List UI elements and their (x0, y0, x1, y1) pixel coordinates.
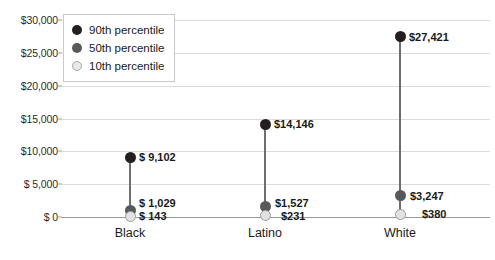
legend-marker-icon (72, 43, 82, 53)
data-label-p50: $3,247 (410, 190, 444, 202)
gridline (62, 86, 490, 87)
legend-item-p10: 10th percentile (72, 57, 164, 75)
data-point-p90 (260, 119, 271, 130)
dot-plot-chart: $30,000 $25,000 $20,000 $15,000 $10,000 … (0, 0, 495, 260)
x-axis-tick-label-black: Black (115, 226, 146, 240)
x-axis-tick-label-white: White (384, 226, 416, 240)
data-point-p10 (395, 209, 406, 220)
chart-legend: 90th percentile 50th percentile 10th per… (63, 14, 175, 82)
y-axis-tick-label: $30,000 (0, 14, 58, 26)
data-label-p90: $27,421 (409, 31, 449, 43)
data-point-p10 (260, 210, 271, 221)
data-label-p10: $380 (422, 208, 446, 220)
data-label-p50: $ 1,029 (139, 197, 176, 209)
data-point-p10 (125, 211, 136, 222)
legend-item-p50: 50th percentile (72, 39, 164, 57)
data-point-p90 (125, 152, 136, 163)
data-label-p90: $ 9,102 (139, 151, 176, 163)
gridline (62, 184, 490, 185)
legend-marker-icon (72, 25, 82, 35)
legend-marker-icon (72, 61, 82, 71)
data-label-p50: $1,527 (275, 197, 309, 209)
data-point-p90 (395, 31, 406, 42)
y-axis-tick-label: $10,000 (0, 145, 58, 157)
legend-label: 10th percentile (89, 60, 164, 72)
y-axis-tick-label: $25,000 (0, 47, 58, 59)
data-label-p10: $ 143 (139, 210, 167, 222)
legend-item-p90: 90th percentile (72, 21, 164, 39)
data-label-p10: $231 (281, 210, 305, 222)
y-axis-tick-label: $ 5,000 (0, 178, 58, 190)
y-axis-tick-label: $15,000 (0, 113, 58, 125)
x-axis-tick-label-latino: Latino (248, 226, 282, 240)
data-label-p90: $14,146 (274, 118, 314, 130)
y-axis-tick-label: $20,000 (0, 80, 58, 92)
legend-label: 90th percentile (89, 24, 164, 36)
legend-label: 50th percentile (89, 42, 164, 54)
y-axis-tick-label: $ 0 (0, 211, 58, 223)
data-point-p50 (395, 190, 406, 201)
